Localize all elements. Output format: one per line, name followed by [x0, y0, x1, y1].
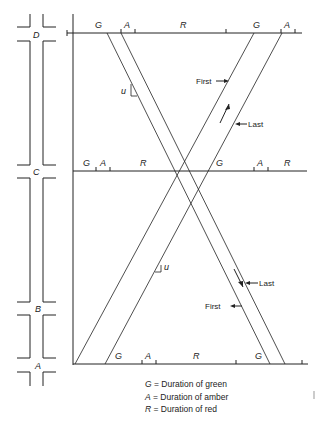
intersection-label-d: D	[33, 30, 40, 40]
phase-label: G	[83, 158, 90, 168]
first-pointer-icon	[224, 79, 229, 83]
angle-label: u	[164, 262, 169, 272]
legend: G = Duration of green A = Duration of am…	[145, 378, 228, 416]
arrowhead-up-icon	[225, 104, 230, 110]
phase-label: A	[283, 20, 290, 30]
road-schematic	[17, 14, 56, 386]
phase-label: A	[256, 158, 263, 168]
phase-label: A	[99, 158, 106, 168]
phase-label: G	[216, 158, 223, 168]
legend-item-green: G = Duration of green	[145, 378, 228, 391]
phase-label: R	[140, 158, 147, 168]
phase-label: G	[95, 20, 102, 30]
southbound-first-label: First	[205, 302, 221, 311]
angle-mark-top	[131, 84, 137, 96]
phase-label: G	[255, 351, 262, 361]
phase-label: R	[284, 158, 291, 168]
northbound-last-label: Last	[248, 120, 264, 129]
southbound-last-label: Last	[259, 279, 275, 288]
intersection-label-a: A	[34, 361, 41, 371]
last-pointer-icon	[235, 122, 240, 126]
phase-label: A	[123, 20, 130, 30]
signal-line-d	[67, 29, 302, 36]
arrowhead-down-icon	[238, 281, 243, 287]
first-pointer-icon	[230, 304, 235, 308]
time-space-diagram: D C B A G A R G A G A R G A R G A R G u …	[0, 0, 326, 426]
legend-item-amber: A = Duration of amber	[145, 391, 228, 404]
intersection-label-c: C	[33, 167, 40, 177]
angle-label: u	[121, 86, 126, 96]
phase-label: G	[253, 20, 260, 30]
signal-line-a	[73, 360, 308, 364]
phase-label: R	[180, 20, 187, 30]
legend-item-red: R = Duration of red	[145, 403, 228, 416]
signal-line-c	[73, 167, 307, 171]
northbound-first-label: First	[196, 77, 212, 86]
northbound-band	[75, 33, 282, 364]
intersection-label-b: B	[35, 304, 41, 314]
phase-label: G	[115, 351, 122, 361]
phase-label: A	[144, 351, 151, 361]
phase-label: R	[193, 351, 200, 361]
